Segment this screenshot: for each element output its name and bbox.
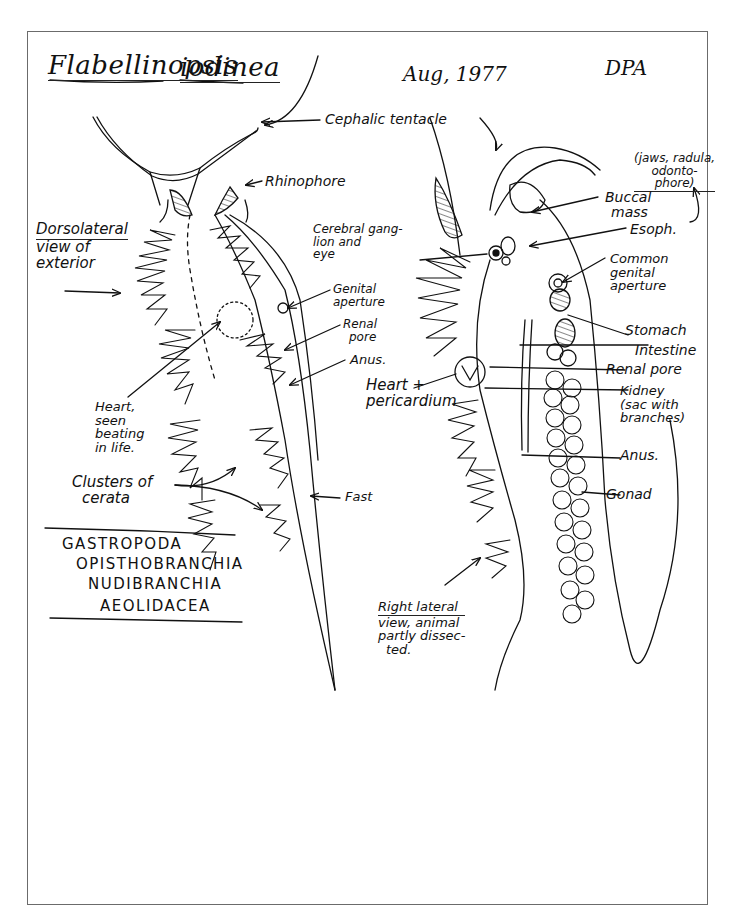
label-line: pericardium [366,394,457,410]
note-line: Heart, [95,400,144,414]
heart-note: Heart, seen beating in life. [95,400,144,455]
caption-line: partly dissec- [378,629,465,643]
common-genital-aperture-label: Common genital aperture [610,252,669,293]
label-line: cerata [82,491,152,507]
label-line: pore [349,331,377,344]
caption-line: Right lateral [378,600,465,616]
label-line: genital [610,266,669,280]
note-line: seen [95,414,144,428]
gonad-label: Gonad [606,487,652,502]
note-line: in life. [95,441,144,455]
label-line: Common [610,252,669,266]
taxon-subclass: OPISTHOBRANCHIA [76,555,244,573]
caption-line: exterior [36,256,128,272]
renal-pore-label-right: Renal pore [606,362,682,377]
label-line: eye [313,248,403,261]
heart-pericardium-label: Heart + pericardium [366,378,457,410]
note-line: (jaws, radula, [634,152,715,165]
label-line: mass [611,205,651,220]
label-line: aperture [333,296,385,309]
author-initials: DPA [605,58,647,79]
note-line: beating [95,427,144,441]
label-line: aperture [610,279,669,293]
taxon-suborder: AEOLIDACEA [100,597,211,615]
esophagus-label: Esoph. [630,222,677,237]
renal-pore-label: Renal pore [343,318,377,343]
species-name: iodinea [180,54,280,83]
label-line: Cerebral gang- [313,223,403,236]
date: Aug, 1977 [403,64,507,85]
dorsolateral-caption: Dorsolateral view of exterior [36,222,128,271]
label-line: Renal [343,318,377,331]
caption-line: view, animal [378,616,465,630]
anus-label-left: Anus. [350,353,386,367]
caption-line: ted. [386,643,465,657]
cerebral-ganglion-label: Cerebral gang- lion and eye [313,223,403,261]
stomach-label: Stomach [625,323,687,338]
label-line: (sac with [620,398,685,412]
right-lateral-caption: Right lateral view, animal partly dissec… [378,600,465,657]
label-line: Buccal [605,190,651,205]
intestine-label: Intestine [635,343,696,358]
rhinophore-label: Rhinophore [265,174,346,189]
kidney-label: Kidney (sac with branches) [620,384,685,425]
jaws-radula-note: (jaws, radula, odonto- phore) [634,152,715,192]
label-line: Genital [333,283,385,296]
cerata-label: Clusters of cerata [72,475,152,507]
genital-aperture-label: Genital aperture [333,283,385,308]
label-line: Kidney [620,384,685,398]
taxon-order: NUDIBRANCHIA [88,575,222,593]
cephalic-tentacle-label: Cephalic tentacle [325,112,447,127]
foot-label: Fast [345,490,372,504]
taxon-class: GASTROPODA [62,535,182,553]
anus-label-right: Anus. [620,448,659,463]
label-line: branches) [620,411,685,425]
buccal-mass-label: Buccal mass [605,190,651,219]
